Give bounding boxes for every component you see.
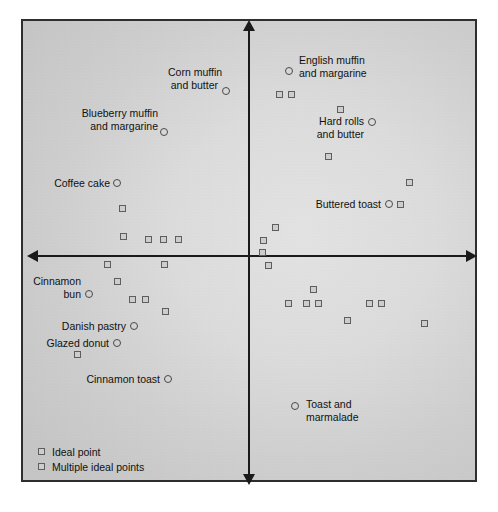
ideal-point-marker [161, 261, 168, 268]
ideal-point-marker [288, 91, 295, 98]
product-label: Blueberry muffin and margarine [72, 107, 158, 132]
ideal-point-marker [285, 300, 292, 307]
ideal-point-marker [145, 236, 152, 243]
product-position-marker [113, 339, 121, 347]
product-label: Danish pastry [50, 320, 126, 333]
ideal-point-marker [162, 308, 169, 315]
ideal-point-marker [104, 261, 111, 268]
ideal-point-marker [272, 224, 279, 231]
ideal-point-marker [160, 236, 167, 243]
product-label: Coffee cake [42, 177, 110, 190]
ideal-point-marker [175, 236, 182, 243]
legend-square-icon [38, 448, 45, 455]
ideal-point-marker [259, 249, 266, 256]
ideal-point-marker [310, 286, 317, 293]
product-position-marker [85, 290, 93, 298]
ideal-point-marker [276, 91, 283, 98]
product-position-marker [164, 375, 172, 383]
ideal-point-marker [120, 233, 127, 240]
ideal-point-marker [260, 237, 267, 244]
ideal-point-marker [142, 296, 149, 303]
product-label: Corn muffin and butter [168, 66, 218, 91]
product-label: Buttered toast [305, 198, 381, 211]
ideal-point-marker [397, 201, 404, 208]
x-axis-line [34, 255, 474, 257]
product-label: Toast and marmalade [306, 398, 378, 423]
ideal-point-marker [114, 278, 121, 285]
product-position-marker [368, 118, 376, 126]
product-position-marker [385, 200, 393, 208]
ideal-point-marker [74, 351, 81, 358]
ideal-point-marker [325, 153, 332, 160]
product-label: Cinnamon toast [76, 373, 160, 386]
product-label: Hard rolls and butter [304, 115, 364, 140]
y-axis-line [248, 26, 250, 480]
legend-label: Ideal point [52, 446, 100, 458]
product-position-marker [291, 402, 299, 410]
ideal-point-marker [366, 300, 373, 307]
ideal-point-marker [344, 317, 351, 324]
x-axis-left-arrow-icon [27, 250, 38, 262]
ideal-point-marker [406, 179, 413, 186]
legend-item-ideal-point: Ideal point [38, 444, 144, 459]
ideal-point-marker [421, 320, 428, 327]
product-label: Cinnamon bun [19, 275, 81, 300]
ideal-point-marker [337, 106, 344, 113]
y-axis-up-arrow-icon [243, 20, 255, 31]
product-position-marker [222, 87, 230, 95]
ideal-point-marker [378, 300, 385, 307]
legend: Ideal pointMultiple ideal points [38, 444, 144, 474]
ideal-point-marker [265, 262, 272, 269]
perceptual-map-figure: Corn muffin and butterEnglish muffin and… [0, 0, 498, 512]
product-label: English muffin and margarine [299, 54, 394, 79]
product-position-marker [113, 179, 121, 187]
ideal-point-marker [303, 300, 310, 307]
ideal-point-marker [119, 205, 126, 212]
legend-label: Multiple ideal points [52, 461, 144, 473]
y-axis-down-arrow-icon [243, 474, 255, 485]
product-position-marker [160, 128, 168, 136]
product-position-marker [285, 67, 293, 75]
product-position-marker [130, 322, 138, 330]
product-label: Glazed donut [33, 337, 109, 350]
x-axis-right-arrow-icon [466, 250, 477, 262]
legend-square-icon [38, 463, 45, 470]
ideal-point-marker [315, 300, 322, 307]
legend-item-multiple-ideal-points: Multiple ideal points [38, 459, 144, 474]
ideal-point-marker [129, 296, 136, 303]
